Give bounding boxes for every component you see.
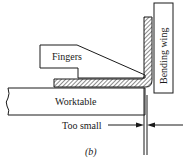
press-brake-diagram: Bending wing Fingers Worktable Too small… xyxy=(0,0,186,163)
worktable-label: Worktable xyxy=(55,96,97,107)
arrowhead-right xyxy=(147,123,155,128)
arrowhead-left xyxy=(136,123,144,128)
figure-caption: (b) xyxy=(85,146,97,158)
bending-wing-label: Bending wing xyxy=(158,28,169,84)
fingers-label: Fingers xyxy=(52,51,82,62)
gap-label: Too small xyxy=(62,120,102,131)
